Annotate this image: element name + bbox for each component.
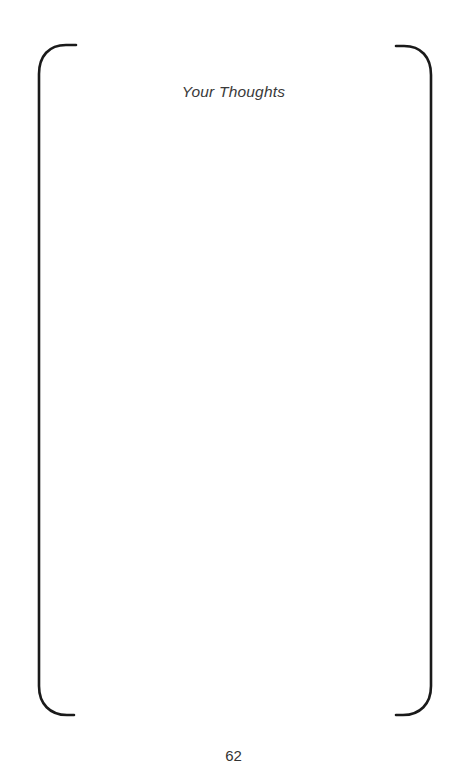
page-number: 62 <box>0 746 467 766</box>
page-title: Your Thoughts <box>0 82 467 102</box>
notebook-page: Your Thoughts 62 <box>0 0 467 774</box>
thoughts-writing-area[interactable] <box>42 112 428 708</box>
